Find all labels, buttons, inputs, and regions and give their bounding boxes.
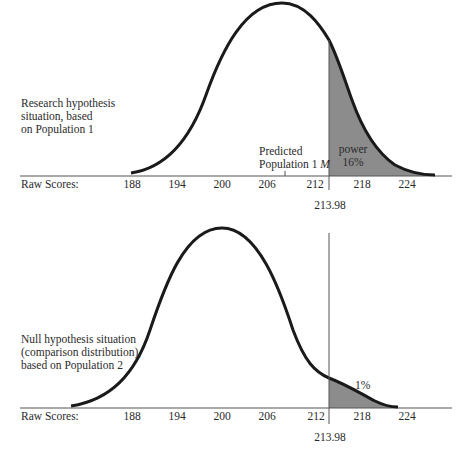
bottom-tick: 194 bbox=[168, 410, 185, 422]
population-2-curve bbox=[71, 228, 398, 407]
bottom-panel-graphics bbox=[20, 228, 452, 424]
top-description: Research hypothesis situation, based on … bbox=[21, 97, 115, 136]
top-tick: 194 bbox=[168, 178, 185, 190]
top-tick: 188 bbox=[123, 178, 140, 190]
top-cutoff-label: 213.98 bbox=[314, 199, 346, 211]
predicted-mean-label: Predicted Population 1 M bbox=[259, 145, 330, 171]
bottom-tick: 218 bbox=[353, 410, 370, 422]
mean-symbol: M bbox=[320, 158, 330, 170]
bottom-description-line: based on Population 2 bbox=[21, 359, 141, 372]
bottom-tick: 188 bbox=[123, 410, 140, 422]
bottom-description-line: (comparison distribution), bbox=[21, 346, 141, 359]
bottom-cutoff-label: 213.98 bbox=[314, 431, 346, 443]
predicted-mean-line1: Predicted bbox=[259, 145, 330, 158]
bottom-tick: 224 bbox=[398, 410, 415, 422]
bottom-tick: 200 bbox=[213, 410, 230, 422]
top-tick: 218 bbox=[353, 178, 370, 190]
top-description-line: situation, based bbox=[21, 110, 115, 123]
top-axis-label: Raw Scores: bbox=[21, 178, 79, 191]
bottom-description-line: Null hypothesis situation bbox=[21, 333, 141, 346]
power-label-line2: 16% bbox=[337, 156, 369, 169]
power-label: power 16% bbox=[337, 143, 369, 169]
alpha-label: 1% bbox=[355, 379, 370, 392]
top-description-line: on Population 1 bbox=[21, 123, 115, 136]
bottom-description: Null hypothesis situation (comparison di… bbox=[21, 333, 141, 372]
top-tick: 206 bbox=[258, 178, 275, 190]
bottom-tick: 212 bbox=[307, 410, 324, 422]
bottom-axis-label: Raw Scores: bbox=[21, 410, 79, 423]
distribution-diagram bbox=[0, 0, 465, 459]
predicted-mean-line2: Population 1 bbox=[259, 158, 317, 170]
top-tick: 200 bbox=[213, 178, 230, 190]
power-label-line1: power bbox=[337, 143, 369, 156]
top-description-line: Research hypothesis bbox=[21, 97, 115, 110]
top-tick: 212 bbox=[306, 178, 323, 190]
bottom-tick: 206 bbox=[258, 410, 275, 422]
top-tick: 224 bbox=[398, 178, 415, 190]
